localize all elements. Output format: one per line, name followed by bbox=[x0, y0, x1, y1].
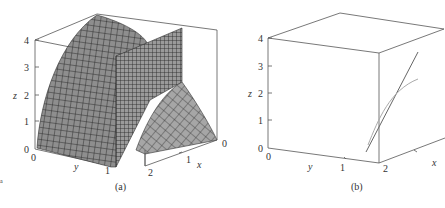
x-tick-1: 1 bbox=[186, 154, 191, 165]
x-tick-2: 2 bbox=[148, 167, 153, 178]
z-axis-label: z bbox=[247, 88, 252, 99]
y-tick-2: 2 bbox=[383, 163, 388, 174]
straight-line-curve bbox=[366, 52, 418, 152]
y-tick-1: 1 bbox=[340, 162, 345, 173]
panel-b: 4 3 2 1 0 z 0 y 1 2 x (b) bbox=[247, 13, 445, 193]
x-axis-label: x bbox=[431, 157, 437, 168]
y-axis-label: y bbox=[73, 161, 79, 172]
z-tick-2: 2 bbox=[258, 88, 263, 99]
panel-b-bounding-box bbox=[268, 13, 445, 163]
panel-b-y-axis: 0 y 1 2 bbox=[266, 151, 388, 174]
y-axis-label: y bbox=[307, 161, 313, 172]
curved-line bbox=[368, 79, 418, 145]
z-tick-2: 2 bbox=[24, 90, 29, 101]
z-axis-label: z bbox=[12, 90, 17, 101]
figure-canvas: 4 3 2 1 0 z 0 y 1 2 1 x 0 (a) a bbox=[0, 0, 445, 208]
z-tick-3: 3 bbox=[258, 61, 263, 72]
y-tick-0: 0 bbox=[31, 152, 36, 163]
z-tick-1: 1 bbox=[24, 116, 29, 127]
z-tick-0: 0 bbox=[258, 143, 263, 154]
y-tick-1: 1 bbox=[105, 165, 110, 176]
y-tick-0: 0 bbox=[266, 151, 271, 162]
caption-b: (b) bbox=[351, 181, 363, 193]
z-tick-3: 3 bbox=[24, 62, 29, 73]
panel-b-x-axis: x bbox=[414, 150, 437, 168]
panel-a: 4 3 2 1 0 z 0 y 1 2 1 x 0 (a) a bbox=[0, 14, 227, 193]
z-tick-1: 1 bbox=[258, 115, 263, 126]
z-tick-4: 4 bbox=[24, 35, 29, 46]
x-tick-0: 0 bbox=[222, 138, 227, 149]
z-tick-0: 0 bbox=[24, 144, 29, 155]
caption-a: (a) bbox=[115, 181, 126, 193]
z-tick-4: 4 bbox=[258, 33, 263, 44]
stray-mark: a bbox=[0, 178, 3, 184]
x-axis-label: x bbox=[196, 159, 202, 170]
